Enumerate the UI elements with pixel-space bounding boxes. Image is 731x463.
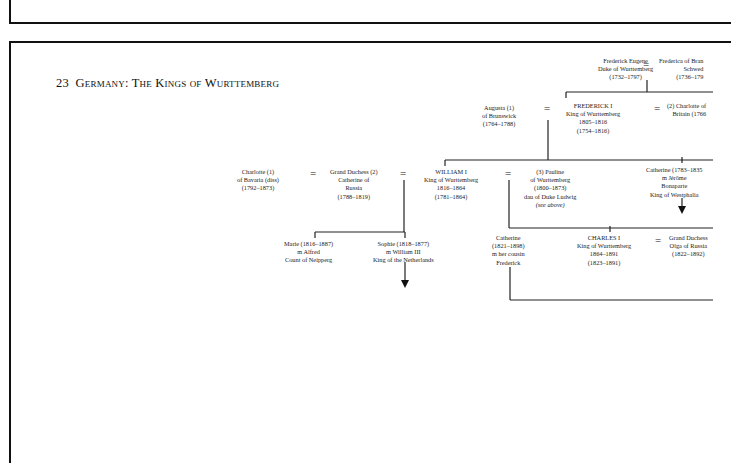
dates: (1823–1891) [577,259,631,267]
person-charlotte-bavaria: Charlotte (1) of Bavaria (diss) (1792–18… [237,168,279,193]
name: Olga of Russia [669,242,708,250]
person-augusta: Augusta (1) of Brunswick (1764–1788) [482,104,516,129]
title: King of Wurttemberg [566,110,620,118]
name: Catherine [492,234,525,242]
dates: (1822–1892) [669,250,708,258]
spouse: m Jérôme [646,174,702,182]
spouse-title: King of Westphalia [646,191,702,199]
name: CHARLES I [577,234,631,242]
spouse: m her cousin [492,250,525,258]
dates: (1736–179 [659,73,703,81]
dates: (1754–1816) [566,127,620,135]
dates: (1788–1819) [330,193,378,201]
person-charles-i: CHARLES I King of Wurttemberg 1864–1891 … [577,234,631,267]
spouse-title: Count of Neipperg [284,256,333,264]
marriage-symbol: = [654,103,660,113]
reign: 1816–1864 [424,184,478,192]
marriage-symbol: = [505,168,511,178]
dates: (1732–1797) [598,73,653,81]
name: WILLIAM I [424,168,478,176]
note: (see above) [524,201,576,209]
spouse-surname: Bonaparte [646,182,702,190]
title: King of Wurttemberg [424,176,478,184]
title: of Bavaria (diss) [237,176,279,184]
name: Grand Duchess (2) [330,168,378,176]
title: Grand Duchess [669,234,708,242]
marriage-symbol: = [310,168,316,178]
person-sophie: Sophie (1818–1877) m William III King of… [373,240,434,265]
spouse-name: Frederick [492,259,525,267]
person-pauline: (3) Pauline of Wurttemberg (1800–1873) d… [524,168,576,209]
name: Frederica of Bran [659,57,703,65]
marriage-symbol: = [655,235,661,245]
person-catherine-westphalia: Catherine (1783–1835 m Jérôme Bonaparte … [646,166,702,199]
title: of Wurttemberg [524,176,576,184]
person-catherine-1821: Catherine (1821–1898) m her cousin Frede… [492,234,525,267]
name: Charlotte (1) [237,168,279,176]
person-frederick-i: FREDERICK I King of Wurttemberg 1805–181… [566,102,620,135]
marriage-symbol: = [544,103,550,113]
country: Russia [330,184,378,192]
name: (2) Charlotte of [667,102,706,110]
arrow-sophie-icon [401,280,409,288]
person-charlotte-britain: (2) Charlotte of Britain (1766 [667,102,706,118]
spouse-title: King of the Netherlands [373,256,434,264]
dates: (1781–1864) [424,193,478,201]
spouse: m Alfred [284,248,333,256]
reign: 1864–1891 [577,250,631,258]
title: Schwed [659,65,703,73]
name: Sophie (1818–1877) [373,240,434,248]
dates: (1821–1898) [492,242,525,250]
person-olga: Grand Duchess Olga of Russia (1822–1892) [669,234,708,259]
title: Britain (1766 [667,110,706,118]
dates: (1764–1788) [482,120,516,128]
person-catherine-russia: Grand Duchess (2) Catherine of Russia (1… [330,168,378,201]
person-frederica: Frederica of Bran Schwed (1736–179 [659,57,703,82]
name: Marie (1816–1887) [284,240,333,248]
marriage-symbol: = [400,168,406,178]
title: King of Wurttemberg [577,242,631,250]
dates: (1792–1873) [237,184,279,192]
name: Catherine (1783–1835 [646,166,702,174]
title: Catherine of [330,176,378,184]
name: (3) Pauline [524,168,576,176]
spouse: m William III [373,248,434,256]
marriage-symbol: = [643,59,649,69]
reign: 1805–1816 [566,118,620,126]
person-marie: Marie (1816–1887) m Alfred Count of Neip… [284,240,333,265]
arrow-westphalia-icon [678,206,686,214]
dates: (1800–1873) [524,184,576,192]
name: FREDERICK I [566,102,620,110]
parentage: dau of Duke Ludwig [524,193,576,201]
name: Augusta (1) [482,104,516,112]
person-william-i: WILLIAM I King of Wurttemberg 1816–1864 … [424,168,478,201]
title: of Brunswick [482,112,516,120]
